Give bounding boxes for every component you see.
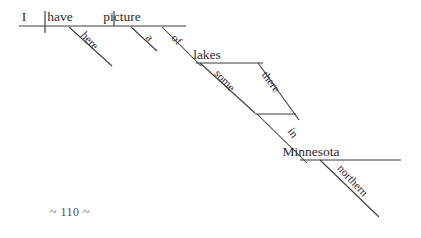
diagram-word-of: of bbox=[169, 32, 184, 47]
diagram-word-here: here bbox=[79, 29, 101, 52]
diagram-word-there: there bbox=[260, 69, 283, 95]
diagram-word-minnesota: Minnesota bbox=[283, 144, 340, 159]
diagram-word-lakes: lakes bbox=[193, 47, 221, 62]
page-number: ~ 110 ~ bbox=[50, 205, 90, 219]
sentence-diagram-page: I have picture lakes Minnesota here a of… bbox=[0, 0, 421, 238]
diagram-word-a: a bbox=[144, 31, 156, 43]
diagram-word-direct-object: picture bbox=[103, 9, 140, 24]
diagram-word-verb: have bbox=[47, 9, 72, 24]
diagram-word-in: in bbox=[286, 126, 301, 140]
sentence-diagram: I have picture lakes Minnesota here a of… bbox=[0, 0, 421, 238]
diagram-word-some: some bbox=[212, 67, 237, 93]
diagram-word-subject: I bbox=[22, 9, 27, 24]
